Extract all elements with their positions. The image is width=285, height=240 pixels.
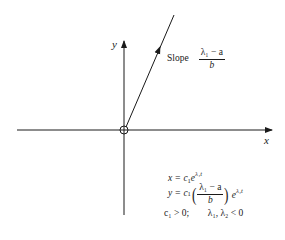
x-eq-exponent: λ₁t (195, 170, 202, 177)
y-eq-numerator: λ₁ − a (197, 183, 223, 195)
y-eq-lhs: y = c (168, 189, 188, 199)
y-equation: y = c1 ( λ₁ − a b ) eλ₁t (168, 183, 243, 205)
slope-fraction: λ₁ − a b (199, 48, 225, 70)
condition-c1: c₁ > 0; (164, 208, 189, 218)
x-axis-label: x (264, 135, 269, 146)
x-eq-lhs: x = c (168, 173, 188, 183)
condition-lambdas: λ₁, λ₂ < 0 (208, 208, 243, 218)
slope-annotation: Slope λ₁ − a b (167, 48, 225, 70)
slope-numerator: λ₁ − a (199, 48, 225, 60)
right-paren: ) (224, 185, 228, 204)
y-eq-subscript: 1 (188, 191, 191, 198)
slope-denominator: b (209, 60, 214, 71)
y-eq-denominator: b (208, 195, 213, 206)
y-eq-fraction: λ₁ − a b (197, 183, 223, 205)
left-paren: ( (192, 185, 196, 204)
conditions: c₁ > 0; λ₁, λ₂ < 0 (164, 209, 243, 219)
slope-word: Slope (167, 54, 189, 64)
y-eq-exponent: λ₁t (236, 187, 243, 194)
y-axis-label: y (112, 39, 117, 50)
